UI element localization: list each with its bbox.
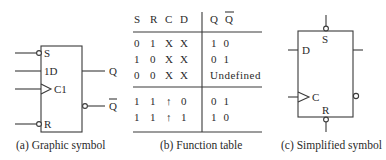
s-inversion-bubble-icon: [37, 51, 42, 56]
s-input-label: S: [322, 33, 328, 45]
cell-s: 1: [134, 95, 140, 107]
cell-output: 1 0: [211, 37, 230, 49]
clock-input-label: C: [312, 91, 319, 103]
clock-triangle-icon: [41, 84, 51, 94]
cell-r: 0: [150, 69, 156, 81]
r-input-label: R: [44, 118, 52, 130]
header-r: R: [150, 13, 158, 25]
simplified-symbol: S D C R (c) Simplified symbol: [281, 15, 382, 152]
r-input-label: R: [322, 104, 330, 116]
s-inversion-bubble-icon: [324, 26, 329, 31]
d-input-label: 1D: [44, 65, 58, 77]
cell-r: 0: [150, 53, 156, 65]
header-qbar: Q: [225, 13, 233, 25]
clock-input-label: C1: [54, 83, 67, 95]
r-inversion-bubble-icon: [324, 117, 329, 122]
table-row: 1 1 ↑ 0 0 1: [134, 95, 230, 107]
header-s: S: [134, 13, 141, 25]
cell-output: 1 0: [211, 111, 230, 123]
cell-r: 1: [150, 111, 156, 123]
cell-d: X: [180, 53, 188, 65]
q-output-label: Q: [109, 65, 117, 77]
s-input-label: S: [44, 47, 50, 59]
cell-s: 0: [134, 69, 140, 81]
clock-triangle-icon: [298, 92, 309, 102]
header-c: C: [165, 13, 173, 25]
cell-d: X: [180, 69, 188, 81]
table-row: 0 1 X X 1 0: [134, 37, 230, 49]
d-input-label: D: [302, 44, 310, 56]
qbar-inversion-bubble-icon: [83, 104, 88, 109]
table-row: 0 0 X X Undefined: [134, 69, 261, 81]
cell-d: 1: [181, 111, 187, 123]
cell-c: X: [165, 69, 173, 81]
cell-c: X: [165, 53, 173, 65]
cell-s: 1: [134, 111, 140, 123]
cell-output: Undefined: [210, 69, 261, 81]
table-row: 1 1 ↑ 1 1 0: [134, 111, 230, 123]
cell-r: 1: [150, 37, 156, 49]
cell-output: 0 1: [211, 53, 230, 65]
cell-c: X: [165, 37, 173, 49]
cell-s: 1: [134, 53, 140, 65]
qbar-output-label: Q: [109, 100, 117, 112]
header-d: D: [180, 13, 188, 25]
r-inversion-bubble-icon: [37, 122, 42, 127]
simplified-symbol-caption: (c) Simplified symbol: [281, 139, 382, 152]
function-table: S R C D Q Q 0 1 X X 1 0 1 0 X X 0 1 0 0 …: [133, 12, 262, 152]
header-q: Q: [210, 13, 218, 25]
cell-output: 0 1: [211, 95, 230, 107]
function-table-caption: (b) Function table: [160, 139, 242, 152]
rising-edge-icon: ↑: [166, 111, 172, 123]
rising-edge-icon: ↑: [166, 95, 172, 107]
graphic-symbol-caption: (a) Graphic symbol: [16, 139, 105, 152]
cell-r: 1: [150, 95, 156, 107]
cell-d: 0: [181, 95, 187, 107]
graphic-symbol: S 1D C1 R Q Q (a) Graphic symbol: [15, 46, 117, 152]
qbar-inversion-bubble-icon: [353, 93, 358, 98]
table-row: 1 0 X X 0 1: [134, 53, 230, 65]
cell-s: 0: [134, 37, 140, 49]
d-flip-flop-figure: S 1D C1 R Q Q (a) Graphic symbol S R C D…: [0, 0, 386, 160]
cell-d: X: [180, 37, 188, 49]
